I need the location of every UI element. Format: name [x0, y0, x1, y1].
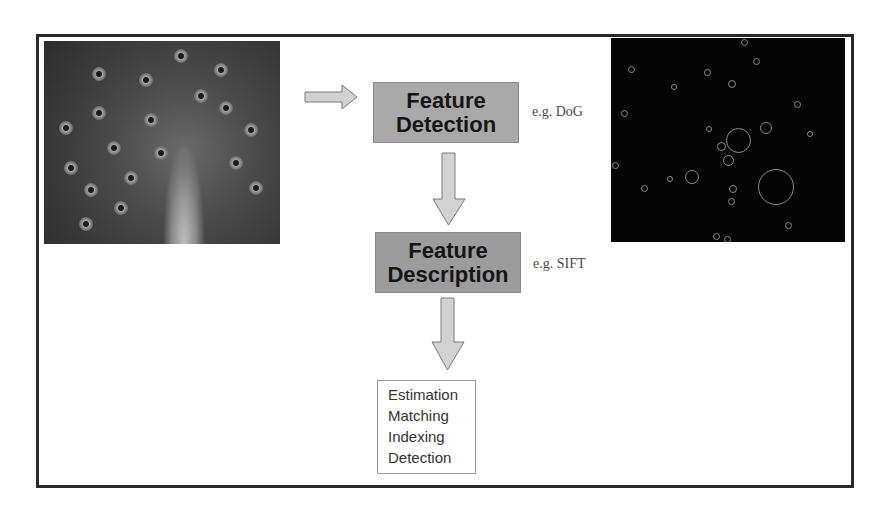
detection-example-label: e.g. DoG [532, 104, 583, 120]
application-item: Matching [388, 405, 475, 426]
down-arrow-icon [432, 152, 466, 226]
feature-detection-title-line2: Detection [396, 113, 496, 137]
feature-description-title-line2: Description [387, 263, 508, 287]
description-example-label: e.g. SIFT [533, 256, 586, 272]
feature-detection-box: Feature Detection [373, 82, 519, 143]
applications-list: Estimation Matching Indexing Detection [377, 380, 476, 474]
peacock-input-image [44, 41, 280, 244]
right-arrow-icon [304, 84, 358, 110]
down-arrow-icon [431, 297, 465, 371]
application-item: Indexing [388, 426, 475, 447]
application-item: Estimation [388, 384, 475, 405]
feature-detection-title-line1: Feature [406, 89, 485, 113]
feature-description-box: Feature Description [375, 232, 521, 293]
feature-description-title-line1: Feature [408, 239, 487, 263]
application-item: Detection [388, 447, 475, 468]
keypoints-output-image [611, 38, 845, 242]
